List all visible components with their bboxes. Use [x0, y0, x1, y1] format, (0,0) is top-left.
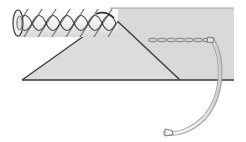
rope-group [8, 6, 128, 40]
needle-tip [165, 129, 173, 136]
figure-container [0, 0, 246, 142]
rope-end-cap [13, 10, 23, 36]
illustration-svg [0, 0, 246, 142]
needle-swage [207, 37, 214, 43]
